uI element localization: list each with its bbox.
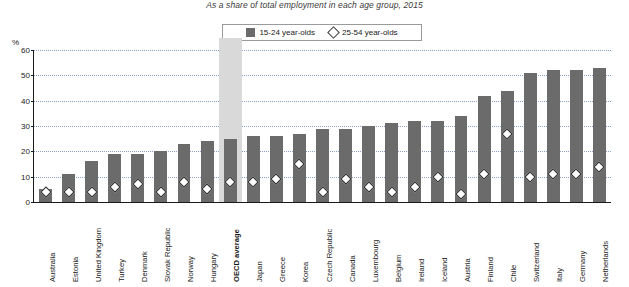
bar-swatch-icon — [246, 28, 255, 37]
bar — [270, 136, 283, 202]
x-axis-category-label: Japan — [255, 261, 264, 282]
x-axis-category-label: Slovak Republic — [163, 228, 172, 282]
y-axis-tick-label: 0 — [26, 198, 30, 207]
x-axis-category-label: Switzerland — [532, 243, 541, 282]
bar — [108, 154, 121, 202]
y-axis-tick-label: 30 — [21, 122, 30, 131]
y-axis-tick-mark — [31, 101, 34, 102]
y-axis-tick-label: 60 — [21, 46, 30, 55]
x-axis-category-label: Norway — [186, 256, 195, 282]
diamond-swatch-icon — [327, 26, 340, 39]
y-axis-tick-mark — [31, 151, 34, 152]
x-axis-category-label: Czech Republic — [325, 229, 334, 282]
bar — [247, 136, 260, 202]
x-axis-category-label: Chile — [509, 265, 518, 282]
x-axis-category-label: Finland — [486, 257, 495, 282]
x-axis-category-label: United Kingdom — [94, 228, 103, 282]
y-axis-tick-mark — [31, 50, 34, 51]
y-axis-tick-mark — [31, 126, 34, 127]
y-axis-tick-mark — [31, 202, 34, 203]
bar — [224, 139, 237, 202]
x-axis-category-label: Denmark — [140, 251, 149, 282]
legend-label-15-24: 15-24 year-olds — [259, 28, 315, 37]
y-axis-tick-label: 50 — [21, 71, 30, 80]
x-axis-category-label: Turkey — [117, 259, 126, 282]
bar — [524, 73, 537, 202]
x-axis-category-label: Greece — [278, 257, 287, 282]
bar — [478, 96, 491, 202]
bar — [178, 144, 191, 202]
y-axis-tick-label: 20 — [21, 147, 30, 156]
x-axis-category-label: OECD average — [232, 229, 241, 282]
x-axis-category-label: Netherlands — [601, 241, 610, 282]
x-axis-category-label: Ireland — [417, 259, 426, 282]
bar — [593, 68, 606, 202]
legend-item-15-24: 15-24 year-olds — [246, 28, 315, 37]
x-axis-labels: AustraliaEstoniaUnited KingdomTurkeyDenm… — [33, 204, 610, 287]
y-axis-tick-mark — [31, 75, 34, 76]
x-axis-category-label: Estonia — [71, 257, 80, 282]
x-axis-category-label: Austria — [463, 258, 472, 282]
bar — [570, 70, 583, 202]
bar — [501, 91, 514, 202]
bar — [339, 129, 352, 202]
x-axis-category-label: Belgium — [394, 255, 403, 282]
x-axis-category-label: Luxembourg — [371, 240, 380, 282]
legend-item-25-54: 25-54 year-olds — [329, 28, 398, 37]
legend-label-25-54: 25-54 year-olds — [342, 28, 398, 37]
bar — [431, 121, 444, 202]
x-axis-category-label: Germany — [578, 251, 587, 282]
y-axis-tick-mark — [31, 177, 34, 178]
gridline — [34, 50, 611, 51]
chart-subtitle: As a share of total employment in each a… — [0, 0, 629, 10]
x-axis-category-label: Hungary — [209, 253, 218, 282]
plot-area: 0102030405060 — [33, 50, 611, 203]
y-axis-tick-label: 40 — [21, 96, 30, 105]
y-axis-tick-label: 10 — [21, 172, 30, 181]
bar — [547, 70, 560, 202]
x-axis-category-label: Italy — [555, 268, 564, 282]
y-axis-unit-label: % — [12, 38, 19, 47]
chart-legend: 15-24 year-olds 25-54 year-olds — [222, 24, 422, 41]
x-axis-category-label: Canada — [348, 255, 357, 282]
x-axis-category-label: Korea — [301, 262, 310, 282]
x-axis-category-label: Australia — [48, 252, 57, 282]
x-axis-category-label: Iceland — [440, 258, 449, 283]
